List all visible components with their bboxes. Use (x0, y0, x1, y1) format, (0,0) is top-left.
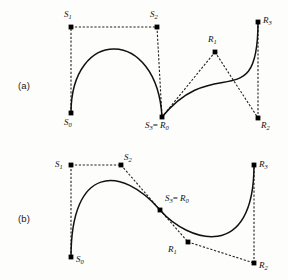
label-base: R (259, 260, 265, 270)
label-b-S0: S0 (76, 255, 84, 264)
panel-b-curve-s (71, 181, 160, 257)
point-marker-S3R0 (158, 208, 163, 213)
point-marker-S1 (69, 25, 74, 30)
label-base: S (64, 9, 69, 19)
point-marker-R1 (213, 50, 218, 55)
label-base: S (76, 254, 81, 264)
point-marker-S2 (119, 163, 124, 168)
label-sub: 0 (81, 258, 84, 265)
label-b-R1: R1 (168, 245, 177, 254)
label-sub: 2 (267, 124, 270, 131)
panel-a-graphics (69, 20, 261, 121)
label-sub: 3 (269, 19, 272, 26)
label-sub2: 0 (186, 197, 189, 204)
label-base: R (168, 244, 174, 254)
point-marker-R3 (256, 20, 261, 25)
label-base2: R (160, 120, 166, 130)
point-marker-S2 (155, 25, 160, 30)
point-marker-R3 (252, 163, 257, 168)
label-sub: 2 (155, 13, 158, 20)
point-marker-R1 (186, 240, 191, 245)
label-base2: R (180, 193, 186, 203)
label-a-R1: R1 (208, 35, 217, 44)
label-b-R2: R2 (259, 261, 268, 270)
label-b-R3: R3 (259, 160, 268, 169)
label-base: S (124, 152, 129, 162)
label-sub: 1 (174, 248, 177, 255)
label-b-S3-R0: S3= R0 (165, 194, 189, 203)
label-base: R (208, 34, 214, 44)
figure-canvas (0, 0, 288, 280)
panel-a-point-markers (69, 20, 261, 121)
label-base: S (165, 193, 170, 203)
label-equals: = (153, 120, 160, 130)
panel-b-graphics (69, 163, 257, 266)
label-a-S0: S0 (64, 118, 72, 127)
point-marker-S3R0 (160, 115, 165, 120)
label-sub: 3 (150, 124, 153, 131)
label-sub: 1 (69, 13, 72, 20)
panel-label-b: (b) (18, 213, 30, 224)
label-b-S1: S1 (55, 160, 63, 169)
label-base: R (259, 159, 265, 169)
label-sub: 2 (265, 264, 268, 271)
panel-a-curve-s (71, 49, 162, 117)
panel-label-a: (a) (18, 80, 30, 91)
label-sub: 3 (265, 163, 268, 170)
panel-a-s-control-polygon (71, 27, 162, 117)
panel-b-s-control-polygon (71, 165, 160, 257)
label-base: S (145, 120, 150, 130)
point-marker-R2 (256, 116, 261, 121)
label-base: S (55, 159, 60, 169)
bezier-continuity-figure: (a) (b) S0 S1 S2 S3= R0 R1 R2 R3 S0 S1 S… (0, 0, 288, 280)
label-equals: = (173, 193, 180, 203)
point-marker-S0 (69, 111, 74, 116)
label-a-S2: S2 (150, 10, 158, 19)
point-marker-S0 (69, 255, 74, 260)
point-marker-S1 (69, 163, 74, 168)
label-a-S1: S1 (64, 10, 72, 19)
label-b-S2: S2 (124, 153, 132, 162)
label-base: R (261, 120, 267, 130)
label-base: S (64, 117, 69, 127)
label-sub: 0 (69, 121, 72, 128)
label-sub: 1 (214, 38, 217, 45)
label-a-S3-R0: S3= R0 (145, 121, 169, 130)
label-sub2: 0 (166, 124, 169, 131)
label-base: S (150, 9, 155, 19)
label-sub: 3 (170, 197, 173, 204)
label-sub: 2 (129, 156, 132, 163)
label-sub: 1 (60, 163, 63, 170)
label-a-R3: R3 (263, 16, 272, 25)
label-a-R2: R2 (261, 121, 270, 130)
panel-b-point-markers (69, 163, 257, 266)
label-base: R (263, 15, 269, 25)
point-marker-R2 (252, 261, 257, 266)
